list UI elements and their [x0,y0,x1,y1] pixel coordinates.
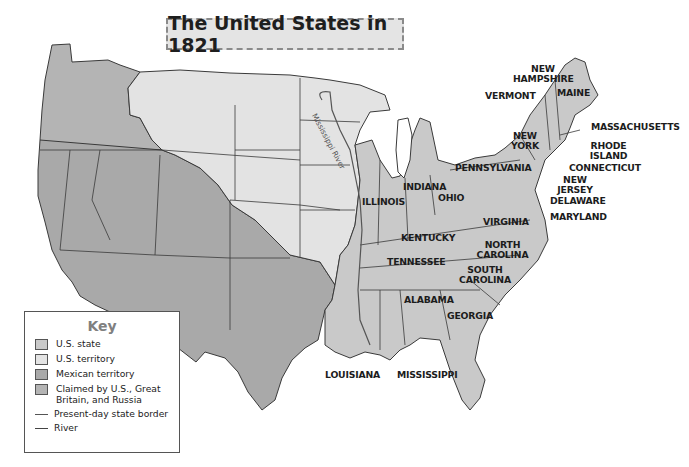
label-ohio: OHIO [438,193,464,203]
label-massachusetts: MASSACHUSETTS [591,122,680,132]
key-label: Claimed by U.S., Great Britain, and Russ… [56,383,171,405]
key-item-us-state: U.S. state [35,338,179,350]
label-illinois: ILLINOIS [362,197,405,207]
label-new-jersey: NEWJERSEY [555,175,595,195]
key-item-mexican-territory: Mexican territory [35,368,179,380]
label-mississippi: MISSISSIPPI [397,370,457,380]
key-title: Key [25,318,179,334]
map-key: Key U.S. state U.S. territory Mexican te… [24,311,180,453]
key-label: Mexican territory [56,368,134,379]
key-item-river: River [35,422,179,433]
label-pennsylvania: PENNSYLVANIA [455,163,532,173]
key-item-claimed: Claimed by U.S., Great Britain, and Russ… [35,383,179,405]
label-connecticut: CONNECTICUT [569,163,641,173]
label-louisiana: LOUISIANA [325,370,380,380]
map: The United States in 1821 Mississippi Ri… [0,0,689,467]
label-new-hampshire: NEWHAMPSHIRE [513,64,573,84]
label-tennessee: TENNESSEE [387,257,445,267]
label-south-carolina: SOUTHCAROLINA [455,265,515,285]
key-label: U.S. state [56,338,101,349]
label-alabama: ALABAMA [404,295,454,305]
key-label: River [54,422,78,433]
label-delaware: DELAWARE [550,196,606,206]
swatch-claimed [35,384,48,395]
map-title: The United States in 1821 [166,18,404,50]
line-sample-river [35,428,48,429]
label-vermont: VERMONT [485,91,536,101]
key-label: U.S. territory [56,353,115,364]
label-new-york: NEWYORK [505,131,545,151]
key-label: Present-day state border [54,408,168,419]
label-maine: MAINE [557,88,590,98]
key-item-state-border: Present-day state border [35,408,179,419]
swatch-mexican-territory [35,369,48,380]
swatch-us-territory [35,354,48,365]
label-north-carolina: NORTHCAROLINA [470,240,535,260]
label-maryland: MARYLAND [550,212,607,222]
label-kentucky: KENTUCKY [401,233,455,243]
label-rhode-island: RHODEISLAND [586,141,631,161]
key-item-us-territory: U.S. territory [35,353,179,365]
label-georgia: GEORGIA [447,311,493,321]
label-virginia: VIRGINIA [483,217,529,227]
swatch-us-state [35,339,48,350]
label-indiana: INDIANA [403,182,446,192]
line-sample-border [35,414,48,415]
